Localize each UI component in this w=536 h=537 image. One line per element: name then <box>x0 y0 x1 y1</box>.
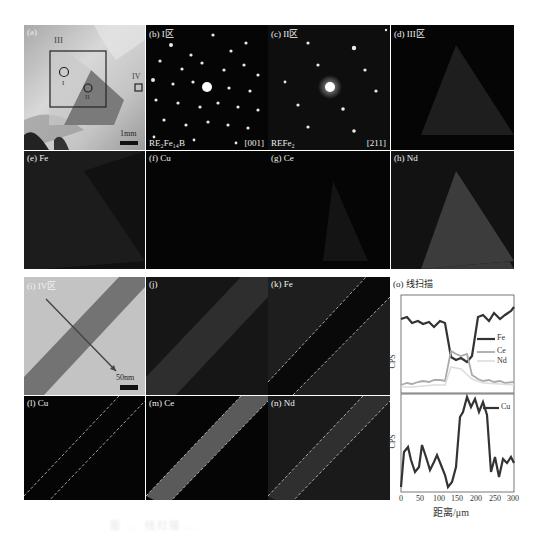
x-tick: 50 <box>416 494 424 503</box>
nd-map-texture <box>391 151 514 269</box>
scale-bar-label: 1mm <box>120 129 136 138</box>
region-ii-label: II <box>85 93 90 101</box>
eds-triangle-d <box>391 25 514 150</box>
y-axis-label-lower: CPS <box>388 434 397 448</box>
panel-e-fe-map: (e) Fe <box>24 151 145 269</box>
y-axis-label-upper: CPS <box>388 354 397 368</box>
scale-bar-label-i: 50nm <box>116 373 134 382</box>
panel-f-cu-map: (f) Cu <box>146 151 268 269</box>
k-band-overlay <box>268 277 390 395</box>
j-map-texture <box>146 277 268 395</box>
x-tick: 200 <box>470 494 482 503</box>
panel-l-label: (l) Cu <box>27 398 48 408</box>
region-i-label: I <box>62 79 64 87</box>
panel-k-label: (k) Fe <box>271 279 293 289</box>
panel-c-diffraction: (c) II区 REFe₂ [211] <box>268 25 390 150</box>
n-band-overlay <box>268 396 390 500</box>
panel-h-nd-map: (h) Nd <box>391 151 514 269</box>
panel-d-eds-region-iii: (d) III区 <box>391 25 514 150</box>
panel-i-tem-region-iv: (i) IV区 50nm <box>24 277 145 395</box>
panel-e-label: (e) Fe <box>27 153 48 163</box>
panel-o-line-scan: (o) 线扫描 Fe Ce Nd Cu CPS CPS 0 50 100 150… <box>391 277 536 517</box>
region-iii-label: III <box>54 35 63 45</box>
panel-k-fe-map: (k) Fe <box>268 277 390 395</box>
panel-b-label: (b) I区 <box>149 27 174 40</box>
zone-axis-b: [001] <box>245 138 265 148</box>
panel-j-label: (j) <box>149 279 158 289</box>
panel-d-label: (d) III区 <box>394 27 425 40</box>
panel-i-label: (i) IV区 <box>27 279 56 292</box>
panel-g-label: (g) Ce <box>271 153 294 163</box>
ce-map-texture <box>268 151 390 269</box>
x-tick: 150 <box>451 494 463 503</box>
diffraction-pattern-b <box>146 25 268 150</box>
phase-label-c: REFe₂ <box>271 138 295 148</box>
diffraction-pattern-c <box>268 25 390 150</box>
legend-ce: Ce <box>497 346 506 355</box>
region-iv-label: IV <box>132 72 140 81</box>
panel-l-cu-map: (l) Cu <box>24 396 145 500</box>
panel-c-label: (c) II区 <box>271 27 298 40</box>
panel-m-ce-map: (m) Ce <box>146 396 268 500</box>
x-tick: 0 <box>399 494 403 503</box>
x-tick: 100 <box>433 494 445 503</box>
phase-label-b: RE₂Fe₁₄B <box>149 138 185 148</box>
l-band-overlay <box>24 396 145 500</box>
fe-map-texture <box>24 151 145 269</box>
panel-h-label: (h) Nd <box>394 153 418 163</box>
panel-m-label: (m) Ce <box>149 398 174 408</box>
panel-n-label: (n) Nd <box>271 398 295 408</box>
line-scan-plots <box>391 277 536 517</box>
panel-f-label: (f) Cu <box>149 153 171 163</box>
panel-j-map: (j) <box>146 277 268 395</box>
legend-cu: Cu <box>501 402 510 411</box>
panel-b-diffraction: (b) I区 RE₂Fe₁₄B [001] <box>146 25 268 150</box>
x-tick: 250 <box>489 494 501 503</box>
zone-axis-c: [211] <box>367 138 386 148</box>
panel-a-sem-overview: III I II IV 1mm (a) <box>24 25 145 150</box>
panel-g-ce-map: (g) Ce <box>268 151 390 269</box>
legend-fe: Fe <box>497 333 505 342</box>
figure-caption: 图 ... 线扫描 ... <box>110 517 199 532</box>
m-band-overlay <box>146 396 268 500</box>
panel-n-nd-map: (n) Nd <box>268 396 390 500</box>
panel-a-label: (a) <box>27 27 37 37</box>
x-axis-label: 距离/μm <box>433 504 469 519</box>
x-tick: 300 <box>507 494 519 503</box>
legend-nd: Nd <box>497 356 507 365</box>
